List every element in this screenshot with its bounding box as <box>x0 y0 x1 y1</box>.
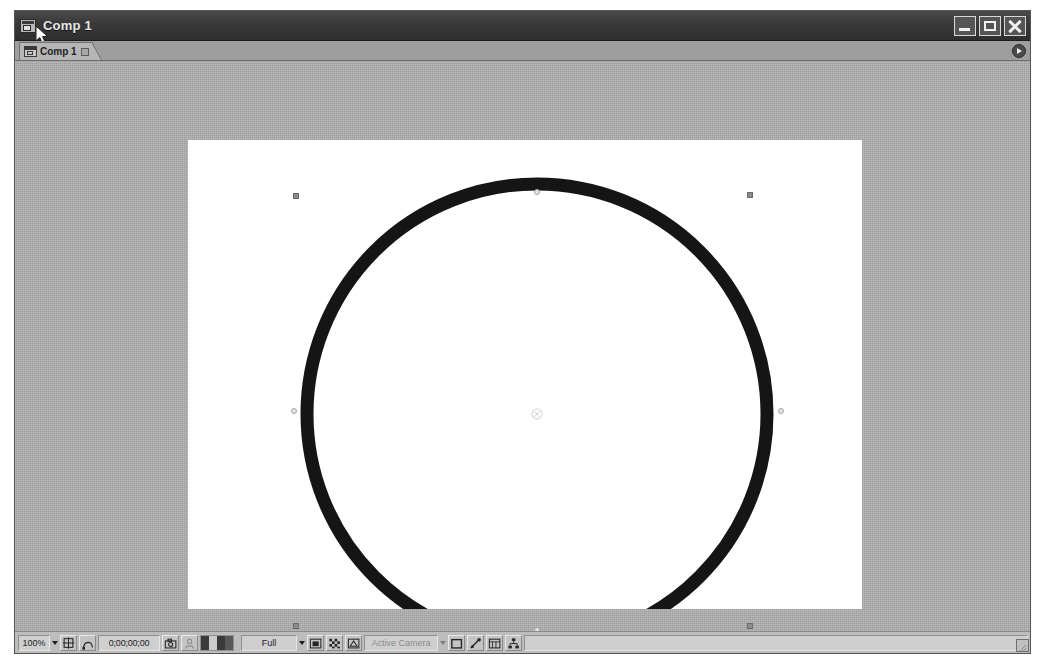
lock-icon[interactable] <box>81 48 89 56</box>
channel-swatch-blue[interactable] <box>217 636 225 650</box>
mask-path-icon <box>81 637 96 651</box>
panel-menu-icon[interactable] <box>1012 44 1026 58</box>
selection-handle-bottom-right[interactable] <box>747 623 753 629</box>
close-button[interactable] <box>1004 16 1026 36</box>
resize-grip[interactable] <box>1016 639 1029 652</box>
grid-icon <box>61 636 76 650</box>
window-title-bar[interactable]: Comp 1 <box>15 11 1030 41</box>
zoom-level-field[interactable]: 100% <box>18 635 50 651</box>
resize-grip-icon <box>1017 643 1028 654</box>
chevron-down-icon[interactable] <box>52 641 58 645</box>
maximize-button[interactable] <box>979 16 1001 36</box>
toolbar-filler <box>524 635 1028 651</box>
resolution-field[interactable]: Full <box>241 635 297 651</box>
alpha-boundary-icon <box>347 637 362 651</box>
timeline-button[interactable] <box>486 635 503 651</box>
timeline-icon <box>488 637 503 651</box>
channel-swatch-alpha[interactable] <box>225 636 233 650</box>
take-snapshot-button[interactable] <box>162 635 179 651</box>
channel-swatch-green[interactable] <box>209 636 217 650</box>
grid-and-guides-button[interactable] <box>60 635 77 651</box>
minimize-icon <box>955 17 975 35</box>
transparency-grid-button[interactable] <box>326 635 343 651</box>
region-of-interest-button[interactable] <box>307 635 324 651</box>
channel-swatch-red[interactable] <box>201 636 209 650</box>
circle-shape-layer <box>307 184 767 609</box>
selection-handle-middle-left[interactable] <box>291 408 297 414</box>
close-icon <box>1005 17 1025 35</box>
window-controls <box>954 16 1026 36</box>
chevron-down-icon[interactable] <box>440 641 446 645</box>
camera-view-field[interactable]: Active Camera <box>364 635 438 651</box>
timecode-field[interactable]: 0;00;00;00 <box>98 635 160 651</box>
composition-viewer[interactable] <box>15 61 1030 631</box>
selection-handle-bottom-left[interactable] <box>293 623 299 629</box>
fast-previews-icon <box>469 637 484 651</box>
selection-handle-top-center[interactable] <box>534 189 540 195</box>
layer-canvas <box>188 140 862 609</box>
window-title: Comp 1 <box>43 18 92 33</box>
mask-visibility-button[interactable] <box>79 635 96 651</box>
region-of-interest-icon <box>309 637 324 651</box>
comp-viewer-window: Comp 1 Comp 1 <box>14 10 1031 654</box>
panel-tab-bar: Comp 1 <box>15 41 1030 61</box>
composition-icon <box>20 19 36 33</box>
camera-icon <box>164 637 179 651</box>
show-snapshot-button[interactable] <box>181 635 198 651</box>
composition-icon <box>24 46 37 57</box>
single-view-icon <box>450 637 465 651</box>
checkerboard-icon <box>328 637 343 651</box>
tab-comp-1[interactable]: Comp 1 <box>19 42 93 60</box>
tab-label: Comp 1 <box>40 46 77 57</box>
flowchart-icon <box>507 637 522 651</box>
alpha-boundary-button[interactable] <box>345 635 362 651</box>
selection-handle-top-left[interactable] <box>293 193 299 199</box>
comp-flowchart-button[interactable] <box>505 635 522 651</box>
viewer-toolbar: 100% 0;00;00;00 <box>15 631 1030 653</box>
selection-handle-top-right[interactable] <box>747 192 753 198</box>
composition-surface[interactable] <box>188 140 862 609</box>
selection-handle-middle-right[interactable] <box>778 408 784 414</box>
channel-swatches[interactable] <box>200 635 234 651</box>
person-icon <box>183 637 198 651</box>
minimize-button[interactable] <box>954 16 976 36</box>
fast-previews-button[interactable] <box>467 635 484 651</box>
anchor-point-icon[interactable] <box>530 407 544 421</box>
view-layout-button[interactable] <box>448 635 465 651</box>
chevron-down-icon[interactable] <box>299 641 305 645</box>
maximize-icon <box>980 17 1000 35</box>
